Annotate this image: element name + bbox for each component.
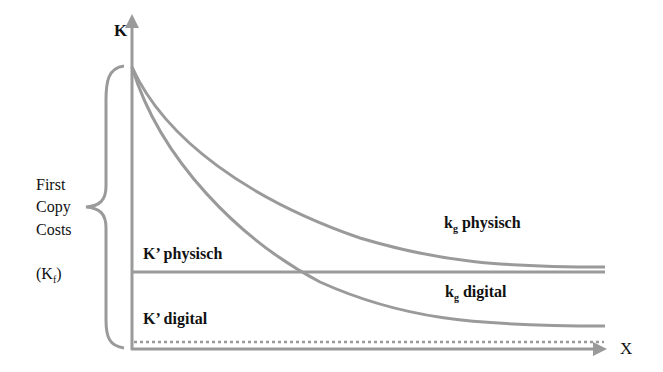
x-axis-label: X [620,340,632,357]
kg-physisch-label: kg physisch [444,215,521,231]
brace-label-kf: (Kf) [36,266,62,282]
y-axis-label: K [114,22,127,39]
k-digital-label: K’ digital [143,311,207,327]
x-axis-arrow-icon [593,342,607,356]
kg-digital-label: kg digital [445,284,506,300]
cost-diagram [0,0,663,372]
brace-label-line1: First [36,177,65,193]
first-copy-costs-brace [86,66,124,348]
kg-digital-curve [132,67,605,326]
brace-label-line3: Costs [36,222,72,238]
brace-label-line2: Copy [36,199,71,215]
k-physisch-label: K’ physisch [143,246,222,262]
kg-physisch-curve [132,67,605,267]
